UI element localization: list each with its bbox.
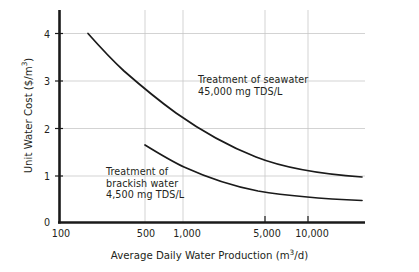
xtick-label-100: 100	[52, 228, 70, 239]
seawater-annotation-line-1: Treatment of seawater	[198, 74, 308, 86]
chart-figure: 4 3 2 1 0 100 500 1,000 5,000 10,000 Tre…	[0, 0, 419, 272]
xtick-label-10000: 10,000	[295, 228, 329, 239]
y-axis-title-prefix: Unit Water Cost ($/m	[23, 66, 34, 173]
y-axis-title-suffix: )	[23, 58, 34, 62]
ytick-label-4: 4	[36, 28, 50, 39]
y-axis-title: Unit Water Cost ($/m3)	[23, 26, 34, 206]
xtick-label-1000: 1,000	[173, 228, 200, 239]
seawater-annotation-line-2: 45,000 mg TDS/L	[198, 86, 308, 98]
brackish-annotation: Treatment of brackish water 4,500 mg TDS…	[106, 166, 184, 201]
ytick-label-1: 1	[36, 171, 50, 182]
ytick-label-0: 0	[36, 217, 50, 228]
horizontal-gridlines	[60, 34, 365, 177]
ytick-label-3: 3	[36, 76, 50, 87]
curve-seawater	[88, 34, 362, 178]
brackish-annotation-line-3: 4,500 mg TDS/L	[106, 189, 184, 201]
x-axis-title: Average Daily Water Production (m3/d)	[0, 250, 419, 261]
x-axis-title-prefix: Average Daily Water Production (m	[111, 250, 290, 261]
brackish-annotation-line-1: Treatment of	[106, 166, 184, 178]
seawater-annotation: Treatment of seawater 45,000 mg TDS/L	[198, 74, 308, 97]
ytick-label-2: 2	[36, 123, 50, 134]
xtick-label-500: 500	[137, 228, 155, 239]
xtick-label-5000: 5,000	[253, 228, 280, 239]
brackish-annotation-line-2: brackish water	[106, 178, 184, 190]
x-axis-title-suffix: /d)	[294, 250, 308, 261]
y-axis-title-exponent: 3	[20, 62, 29, 67]
